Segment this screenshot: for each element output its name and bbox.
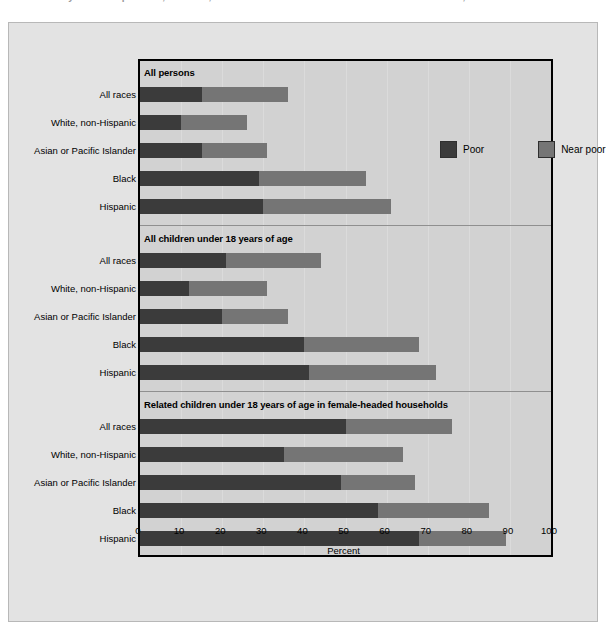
y-label-black: Black (0, 173, 140, 184)
legend-label-near-poor: Near poor (561, 144, 605, 155)
y-label-all-races: All races (0, 89, 140, 100)
x-tick-0: 0 (135, 525, 140, 536)
bar-row (140, 475, 415, 490)
gridline-80 (469, 61, 470, 555)
bar-segment-near-poor (202, 143, 268, 158)
figure-title-strip: Poverty rates for persons, children, and… (0, 0, 606, 20)
x-tick-100: 100 (541, 525, 557, 536)
bar-row (140, 365, 436, 380)
y-label-white-non-hispanic: White, non-Hispanic (0, 283, 140, 294)
bar-row (140, 199, 391, 214)
bar-row (140, 309, 288, 324)
legend: Poor Near poor (440, 141, 606, 158)
bar-row (140, 171, 366, 186)
bar-segment-poor (140, 87, 202, 102)
figure-frame: All racesWhite, non-HispanicAsian or Pac… (8, 22, 598, 622)
y-label-all-races: All races (0, 421, 140, 432)
legend-item-near-poor: Near poor (538, 141, 605, 158)
y-label-all-races: All races (0, 255, 140, 266)
bar-segment-near-poor (304, 337, 419, 352)
bar-segment-poor (140, 309, 222, 324)
x-tick-80: 80 (462, 525, 473, 536)
y-label-white-non-hispanic: White, non-Hispanic (0, 449, 140, 460)
plot-area: All racesWhite, non-HispanicAsian or Pac… (138, 59, 553, 557)
bar-segment-poor (140, 337, 304, 352)
x-tick-60: 60 (379, 525, 390, 536)
y-label-black: Black (0, 339, 140, 350)
bar-segment-poor (140, 419, 346, 434)
bar-segment-near-poor (378, 503, 489, 518)
gridline-90 (510, 61, 511, 555)
bar-segment-poor (140, 253, 226, 268)
y-label-asian-or-pacific-islander: Asian or Pacific Islander (0, 477, 140, 488)
bar-segment-near-poor (226, 253, 321, 268)
y-label-asian-or-pacific-islander: Asian or Pacific Islander (0, 311, 140, 322)
bar-segment-poor (140, 115, 181, 130)
panel-title-3: Related children under 18 years of age i… (144, 399, 448, 410)
bar-segment-near-poor (222, 309, 288, 324)
bar-segment-poor (140, 143, 202, 158)
bar-row (140, 143, 267, 158)
legend-label-poor: Poor (463, 144, 484, 155)
x-tick-50: 50 (338, 525, 349, 536)
x-tick-90: 90 (503, 525, 514, 536)
bar-segment-near-poor (202, 87, 288, 102)
y-axis-category-labels: All racesWhite, non-HispanicAsian or Pac… (0, 61, 140, 555)
bar-row (140, 337, 419, 352)
bar-segment-poor (140, 281, 189, 296)
x-tick-30: 30 (256, 525, 267, 536)
bar-segment-near-poor (284, 447, 403, 462)
y-label-white-non-hispanic: White, non-Hispanic (0, 117, 140, 128)
bar-segment-near-poor (181, 115, 247, 130)
bar-row (140, 115, 247, 130)
y-label-hispanic: Hispanic (0, 533, 140, 544)
gridline-70 (428, 61, 429, 555)
panel-separator-3 (140, 391, 551, 392)
bar-row (140, 87, 288, 102)
panel-separator-2 (140, 225, 551, 226)
bar-segment-poor (140, 503, 378, 518)
bar-segment-poor (140, 199, 263, 214)
bar-segment-near-poor (189, 281, 267, 296)
bar-row (140, 503, 489, 518)
y-label-hispanic: Hispanic (0, 367, 140, 378)
bar-row (140, 531, 506, 546)
panel-title-2: All children under 18 years of age (144, 233, 293, 244)
y-label-asian-or-pacific-islander: Asian or Pacific Islander (0, 145, 140, 156)
x-tick-10: 10 (174, 525, 185, 536)
bar-segment-near-poor (346, 419, 453, 434)
bar-segment-poor (140, 475, 341, 490)
bar-segment-near-poor (341, 475, 415, 490)
bar-segment-poor (140, 365, 309, 380)
legend-swatch-near-poor (538, 141, 555, 158)
bar-row (140, 419, 452, 434)
bar-row (140, 253, 321, 268)
x-tick-20: 20 (215, 525, 226, 536)
y-label-hispanic: Hispanic (0, 201, 140, 212)
x-axis-title: Percent (327, 545, 360, 556)
figure-title: Poverty rates for persons, children, and… (36, 0, 492, 2)
bar-segment-near-poor (309, 365, 436, 380)
y-label-black: Black (0, 505, 140, 516)
bar-segment-poor (140, 447, 284, 462)
panel-title-1: All persons (144, 67, 195, 78)
legend-item-poor: Poor (440, 141, 484, 158)
bar-segment-poor (140, 171, 259, 186)
bar-row (140, 447, 403, 462)
bar-segment-near-poor (263, 199, 390, 214)
legend-swatch-poor (440, 141, 457, 158)
bar-row (140, 281, 267, 296)
bar-segment-near-poor (259, 171, 366, 186)
x-tick-40: 40 (297, 525, 308, 536)
x-tick-70: 70 (420, 525, 431, 536)
